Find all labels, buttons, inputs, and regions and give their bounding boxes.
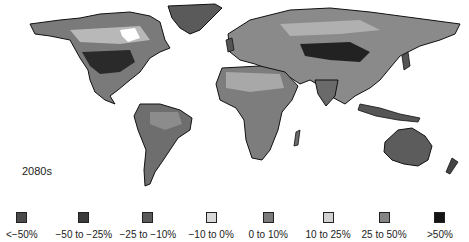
legend-label: −10 to 0% xyxy=(189,229,234,240)
madagascar xyxy=(294,130,300,146)
legend-swatch xyxy=(206,212,217,223)
new-zealand xyxy=(446,158,458,174)
legend-swatch xyxy=(434,212,445,223)
legend-item: 10 to 25% xyxy=(306,208,351,240)
legend: <−50%−50 to −25%−25 to −10%−10 to 0%0 to… xyxy=(0,208,469,242)
period-label: 2080s xyxy=(22,165,52,177)
legend-label: <−50% xyxy=(6,229,38,240)
legend-swatch xyxy=(16,212,27,223)
australia xyxy=(384,128,432,166)
legend-label: −25 to −10% xyxy=(120,229,177,240)
greenland xyxy=(168,4,222,34)
world-map xyxy=(0,0,469,205)
legend-item: −25 to −10% xyxy=(120,208,177,240)
indonesia xyxy=(358,104,420,122)
sahara-light xyxy=(226,72,284,92)
legend-item: 25 to 50% xyxy=(362,208,407,240)
legend-item: >50% xyxy=(427,208,453,240)
india xyxy=(315,80,338,106)
legend-swatch xyxy=(263,212,274,223)
legend-label: >50% xyxy=(427,229,453,240)
legend-item: −10 to 0% xyxy=(189,208,234,240)
legend-swatch xyxy=(78,212,89,223)
legend-label: 10 to 25% xyxy=(306,229,351,240)
legend-swatch xyxy=(379,212,390,223)
legend-label: −50 to −25% xyxy=(56,229,113,240)
legend-label: 25 to 50% xyxy=(362,229,407,240)
legend-label: 0 to 10% xyxy=(249,229,288,240)
legend-item: 0 to 10% xyxy=(249,208,288,240)
legend-item: −50 to −25% xyxy=(56,208,113,240)
legend-item: <−50% xyxy=(6,208,38,240)
legend-swatch xyxy=(323,212,334,223)
legend-swatch xyxy=(142,212,153,223)
